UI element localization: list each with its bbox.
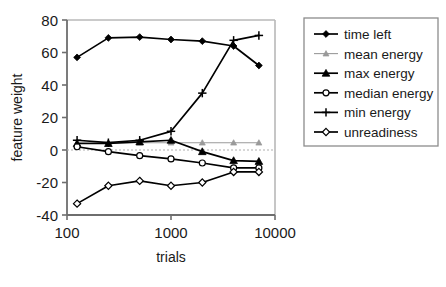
data-point-circle-open bbox=[323, 90, 329, 96]
data-point-circle-open bbox=[168, 156, 174, 162]
legend-label: median energy bbox=[344, 86, 434, 101]
y-tick-label: 40 bbox=[41, 77, 58, 94]
legend-label: mean energy bbox=[344, 47, 423, 62]
legend-label: min energy bbox=[344, 105, 411, 120]
x-axis-ticks: 100100010000 bbox=[54, 215, 295, 241]
chart-figure: -40-20020406080 100100010000 feature wei… bbox=[0, 0, 446, 287]
y-axis-title: feature weight bbox=[9, 73, 25, 161]
data-point-circle-open bbox=[105, 149, 111, 155]
data-point-circle-open bbox=[137, 153, 143, 159]
x-tick-label: 100 bbox=[54, 224, 79, 241]
x-tick-label: 10000 bbox=[254, 224, 296, 241]
x-tick-label: 1000 bbox=[154, 224, 187, 241]
legend: time leftmean energymax energymedian ene… bbox=[304, 18, 438, 146]
data-point-circle-open bbox=[199, 160, 205, 166]
data-point-circle-open bbox=[74, 144, 80, 150]
y-tick-label: -40 bbox=[36, 207, 58, 224]
x-axis-title: trials bbox=[156, 249, 186, 265]
y-tick-label: 60 bbox=[41, 44, 58, 61]
y-axis-ticks: -40-20020406080 bbox=[36, 12, 67, 224]
legend-label: unreadiness bbox=[344, 125, 418, 140]
y-tick-label: 80 bbox=[41, 12, 58, 29]
line-chart: -40-20020406080 100100010000 feature wei… bbox=[0, 0, 446, 287]
y-tick-label: 20 bbox=[41, 109, 58, 126]
y-tick-label: 0 bbox=[50, 142, 58, 159]
legend-label: max energy bbox=[344, 66, 415, 81]
legend-label: time left bbox=[344, 27, 392, 42]
y-tick-label: -20 bbox=[36, 174, 58, 191]
